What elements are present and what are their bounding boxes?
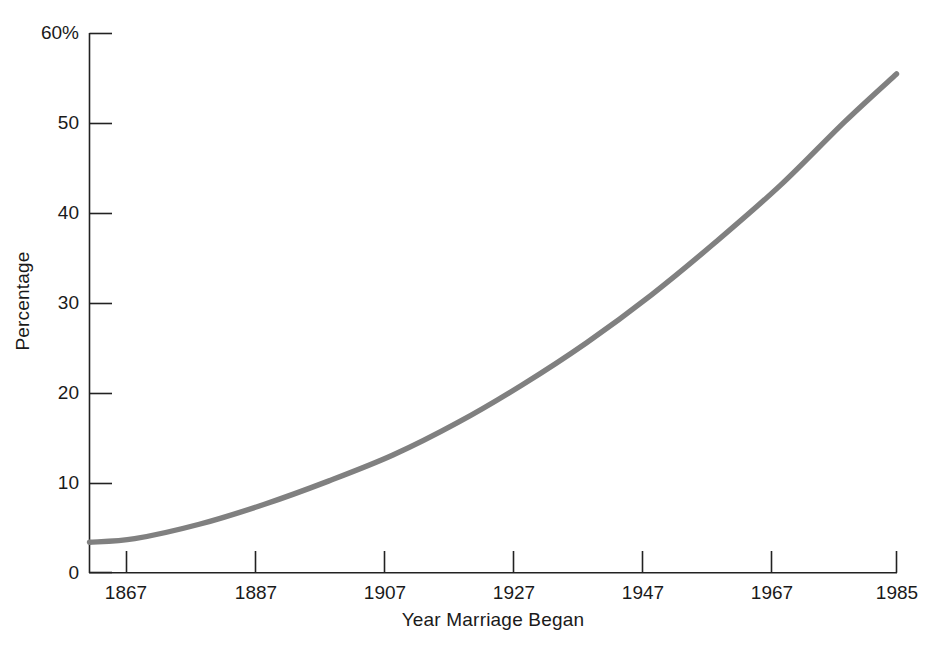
x-tick-label-1887: 1887 — [196, 582, 316, 604]
line-chart-plot — [0, 0, 934, 652]
x-tick-label-1867: 1867 — [66, 582, 186, 604]
chart-figure: Percentage Year Marriage Began 60% 50 40… — [0, 0, 934, 652]
y-tick-label-10: 10 — [0, 472, 79, 494]
x-tick-label-1907: 1907 — [325, 582, 445, 604]
x-tick-label-1967: 1967 — [712, 582, 832, 604]
x-tick-label-1927: 1927 — [454, 582, 574, 604]
y-tick-label-20: 20 — [0, 382, 79, 404]
y-tick-label-60: 60% — [0, 22, 79, 44]
y-tick-label-30: 30 — [0, 292, 79, 314]
x-axis-title: Year Marriage Began — [89, 609, 897, 631]
y-tick-label-40: 40 — [0, 202, 79, 224]
y-tick-label-50: 50 — [0, 112, 79, 134]
x-tick-label-1947: 1947 — [583, 582, 703, 604]
x-tick-label-1985: 1985 — [837, 582, 934, 604]
chart-background — [0, 0, 934, 652]
y-tick-label-0: 0 — [0, 562, 79, 584]
